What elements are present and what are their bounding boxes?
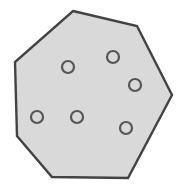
figure-canvas xyxy=(0,0,192,190)
